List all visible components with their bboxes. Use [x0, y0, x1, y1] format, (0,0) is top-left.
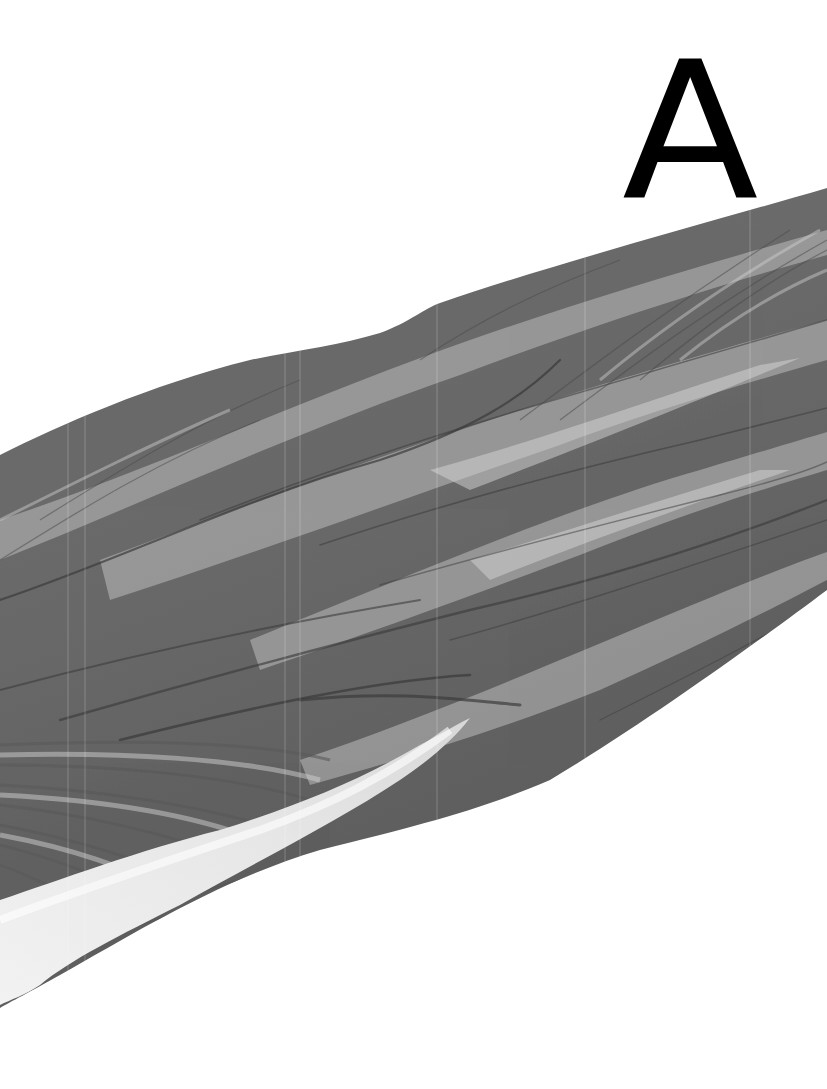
- panel-label: A: [622, 38, 758, 228]
- figure-panel: A: [0, 0, 827, 1089]
